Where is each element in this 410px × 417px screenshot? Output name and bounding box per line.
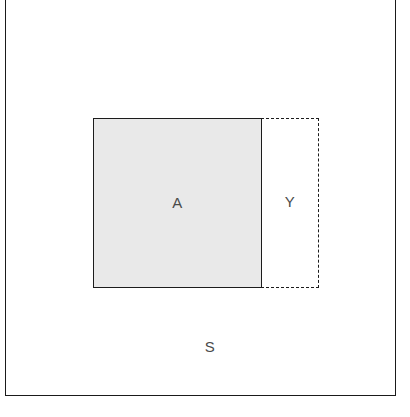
- set-y-label: Y: [261, 194, 319, 209]
- universal-set-label: S: [170, 339, 250, 354]
- set-a-label: A: [93, 195, 262, 210]
- set-diagram-canvas: A Y S: [0, 0, 410, 417]
